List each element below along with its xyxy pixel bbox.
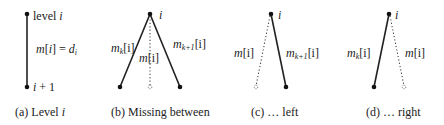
node-left [118,85,123,90]
node-apex [387,12,392,17]
label-m-k-plus-1: mk+1[i] [286,46,319,61]
label-level-i: level i [33,9,63,23]
node-apex [148,12,153,17]
edge-right-solid [271,14,286,87]
diagram-canvas: level i m[i] = di i + 1 (a) Level i i mk… [0,0,444,125]
panel-d: i mk[i] m[i] (d) … right [347,8,425,119]
node-left [372,85,377,90]
label-m-equals-d: m[i] = di [36,42,77,57]
node-missing [148,85,152,89]
label-m-k: mk[i] [347,46,371,61]
caption-a: (a) Level i [15,105,65,119]
panel-c: i m[i] mk+1[i] (c) … left [234,8,319,119]
label-m-k: mk[i] [111,41,135,56]
edge-left-solid [374,14,389,87]
label-m-missing: m[i] [234,46,254,60]
caption-d: (d) … right [366,105,421,119]
edge-missing-right-dotted [390,16,404,86]
node-right [284,85,289,90]
edge-missing-left-dotted [256,16,270,86]
node-missing-right [402,85,406,89]
panel-b: i mk[i] m[i] mk+1[i] (b) Missing between [111,8,210,119]
label-m-missing: m[i] [405,46,425,60]
panel-a: level i m[i] = di i + 1 (a) Level i [15,9,77,119]
caption-b: (b) Missing between [111,105,210,119]
node-missing-left [254,85,258,89]
node-right [178,85,183,90]
node-level-i [25,12,30,17]
label-m-missing: m[i] [139,51,159,65]
label-apex-i: i [159,8,162,22]
label-apex-i: i [278,8,281,22]
label-m-k-plus-1: mk+1[i] [173,37,206,52]
node-level-i-plus-1 [25,85,30,90]
label-i-plus-1: i + 1 [33,80,55,94]
caption-c: (c) … left [251,105,299,119]
node-apex [269,12,274,17]
label-apex-i: i [395,8,398,22]
